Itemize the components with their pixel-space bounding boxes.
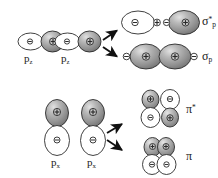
reaction-arrows-sigma (103, 31, 117, 57)
pz-right-orbital (55, 31, 101, 52)
px-right-orbital (81, 100, 106, 156)
label-px-left: px (51, 157, 60, 170)
label-sigma-star-p: σ*p (202, 15, 216, 29)
sigma-p-orbital (123, 44, 197, 69)
pi-star-orbital (141, 90, 180, 128)
px-left-orbital (45, 100, 70, 156)
label-pi-star: π* (186, 103, 196, 115)
label-pz-right: pz (61, 53, 70, 66)
reaction-arrows-pi (107, 124, 122, 150)
pi-orbital (143, 138, 177, 175)
sigma-star-p-orbital (122, 11, 200, 35)
label-px-right: px (87, 157, 96, 170)
label-sigma-p: σp (202, 50, 212, 64)
label-pi: π (186, 150, 192, 162)
label-pz-left: pz (24, 53, 33, 66)
